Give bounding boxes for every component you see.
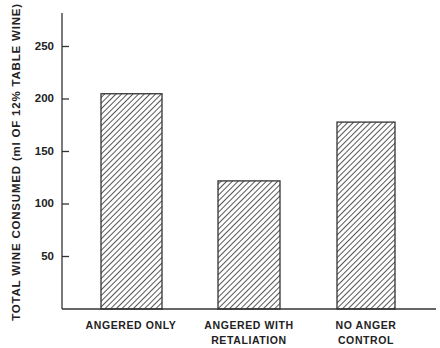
x-category-label: ANGERED WITHRETALIATION [189, 318, 309, 348]
x-category-label: NO ANGERCONTROL [306, 318, 426, 348]
plot-area [0, 0, 440, 348]
bar-1 [101, 94, 162, 309]
y-tick-label: 100 [24, 197, 54, 209]
y-axis-label: TOTAL WINE CONSUMED (ml OF 12% TABLE WIN… [10, 3, 22, 321]
x-category-label: ANGERED ONLY [71, 318, 191, 333]
bar-chart: TOTAL WINE CONSUMED (ml OF 12% TABLE WIN… [0, 0, 440, 348]
y-tick-label: 250 [24, 40, 54, 52]
bar-2 [218, 181, 280, 309]
y-tick-label: 50 [24, 250, 54, 262]
y-tick-label: 200 [24, 92, 54, 104]
bars-group [101, 94, 395, 309]
bar-3 [337, 122, 395, 309]
y-tick-label: 150 [24, 145, 54, 157]
